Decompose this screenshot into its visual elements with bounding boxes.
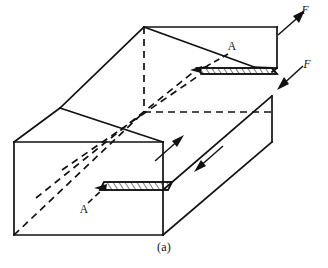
figure-caption: (a) <box>0 240 328 255</box>
upper-section-hatched-band <box>197 68 277 74</box>
section-arrowhead-upper <box>190 66 202 73</box>
block-outline <box>14 27 277 235</box>
lower-block-right-edges <box>163 96 272 235</box>
top-face-left-edges <box>14 27 163 142</box>
figure-container: F F A A (a) <box>0 0 328 268</box>
force-arrow-bottom <box>277 66 303 90</box>
force-arrowhead-bottom <box>277 77 289 90</box>
hidden-shear-plane-lower <box>14 112 144 235</box>
hidden-edges <box>14 27 272 235</box>
top-face-right-edges <box>144 27 277 68</box>
section-label-lower: A <box>80 203 89 215</box>
force-label-bottom: F <box>302 58 311 70</box>
section-label-upper: A <box>228 40 237 52</box>
shear-block-diagram: F F A A <box>0 0 328 268</box>
hidden-shear-plane-upper <box>36 70 196 198</box>
shear-arrow-upper <box>155 135 184 161</box>
hidden-shear-plane-mid <box>62 74 201 170</box>
lower-section-hatched-band <box>100 182 172 190</box>
force-label-top: F <box>300 4 309 16</box>
section-leader-lower <box>88 184 107 203</box>
